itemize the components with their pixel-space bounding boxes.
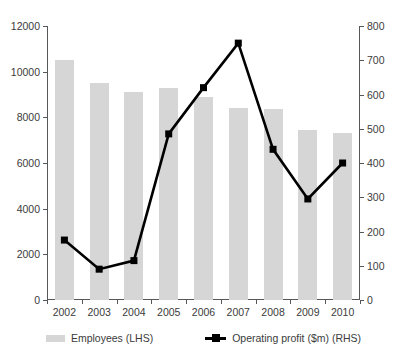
left-axis-tick-label: 10000 bbox=[11, 66, 47, 77]
x-axis-tick bbox=[256, 300, 257, 304]
x-axis-category-label: 2010 bbox=[331, 307, 354, 318]
line-path bbox=[64, 43, 342, 269]
line-marker bbox=[270, 146, 277, 153]
line-marker bbox=[130, 257, 137, 264]
line-marker bbox=[200, 84, 207, 91]
x-axis-category-label: 2007 bbox=[227, 307, 250, 318]
x-axis-tick bbox=[221, 300, 222, 304]
chart-legend: Employees (LHS) Operating profit ($m) (R… bbox=[0, 332, 407, 344]
right-axis-tick-label: 700 bbox=[360, 55, 385, 66]
line-square-marker-icon bbox=[205, 334, 226, 343]
x-axis-category-label: 2006 bbox=[192, 307, 215, 318]
line-marker bbox=[96, 266, 103, 273]
left-axis-tick-label: 0 bbox=[34, 295, 47, 306]
right-axis-tick-label: 600 bbox=[360, 89, 385, 100]
line-marker bbox=[339, 160, 346, 167]
x-axis-tick bbox=[325, 300, 326, 304]
x-axis-category-label: 2009 bbox=[296, 307, 319, 318]
x-axis-tick bbox=[290, 300, 291, 304]
x-axis-tick bbox=[151, 300, 152, 304]
line-marker bbox=[304, 195, 311, 202]
x-axis-category-label: 2008 bbox=[261, 307, 284, 318]
x-axis-tick bbox=[47, 300, 48, 304]
line-marker bbox=[61, 237, 68, 244]
x-axis-tick bbox=[117, 300, 118, 304]
left-axis-tick-label: 6000 bbox=[17, 158, 47, 169]
line-marker bbox=[235, 40, 242, 47]
plot-area: 020004000600080001000012000 010020030040… bbox=[47, 26, 360, 300]
right-axis-tick-label: 400 bbox=[360, 158, 385, 169]
left-axis-tick-label: 4000 bbox=[17, 203, 47, 214]
line-marker bbox=[165, 130, 172, 137]
right-axis-tick-label: 200 bbox=[360, 226, 385, 237]
legend-item-operating-profit: Operating profit ($m) (RHS) bbox=[205, 332, 361, 344]
left-axis-tick-label: 12000 bbox=[11, 21, 47, 32]
right-axis-tick-label: 500 bbox=[360, 123, 385, 134]
x-axis-tick bbox=[360, 300, 361, 304]
right-axis-tick-label: 800 bbox=[360, 21, 385, 32]
legend-label-employees: Employees (LHS) bbox=[71, 332, 153, 344]
left-axis-tick-label: 2000 bbox=[17, 249, 47, 260]
x-axis-tick bbox=[82, 300, 83, 304]
chart-container: 020004000600080001000012000 010020030040… bbox=[0, 0, 407, 357]
x-axis-category-label: 2004 bbox=[122, 307, 145, 318]
legend-item-employees: Employees (LHS) bbox=[46, 332, 153, 344]
line-series-operating-profit bbox=[47, 26, 360, 300]
x-axis-category-label: 2005 bbox=[157, 307, 180, 318]
right-axis-tick-label: 0 bbox=[360, 295, 373, 306]
bar-swatch-icon bbox=[46, 335, 65, 342]
left-axis-tick-label: 8000 bbox=[17, 112, 47, 123]
right-axis-tick-label: 100 bbox=[360, 260, 385, 271]
x-axis-category-label: 2002 bbox=[53, 307, 76, 318]
right-axis-tick-label: 300 bbox=[360, 192, 385, 203]
x-axis-category-label: 2003 bbox=[87, 307, 110, 318]
legend-label-operating-profit: Operating profit ($m) (RHS) bbox=[232, 332, 361, 344]
x-axis-tick bbox=[186, 300, 187, 304]
